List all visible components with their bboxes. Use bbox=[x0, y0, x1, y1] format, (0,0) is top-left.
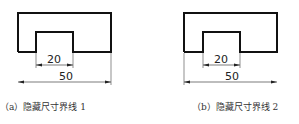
dimension-label-50-b: 50 bbox=[225, 70, 239, 83]
part-outline-a bbox=[18, 13, 111, 52]
arrow-icon bbox=[271, 81, 277, 84]
dimension-label-20-a: 20 bbox=[47, 53, 61, 66]
caption-a: （a）隐藏尺寸界线 1 bbox=[0, 100, 86, 113]
arrow-icon bbox=[203, 64, 209, 67]
arrow-icon bbox=[184, 81, 190, 84]
dimension-label-50-a: 50 bbox=[59, 70, 73, 83]
part-outline-b bbox=[184, 13, 277, 52]
arrow-icon bbox=[105, 81, 111, 84]
caption-b: （b）隐藏尺寸界线 2 bbox=[192, 100, 278, 113]
figure-b: 20 50 bbox=[184, 13, 277, 85]
dimension-label-20-b: 20 bbox=[214, 53, 228, 66]
figure-a: 20 50 bbox=[18, 13, 111, 85]
arrow-icon bbox=[36, 64, 42, 67]
arrow-icon bbox=[234, 64, 240, 67]
arrow-icon bbox=[67, 64, 73, 67]
arrow-icon bbox=[18, 81, 24, 84]
